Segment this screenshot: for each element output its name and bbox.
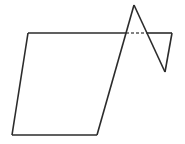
line-drawing-figure bbox=[0, 0, 185, 144]
figure-canvas bbox=[0, 0, 185, 144]
figure-background bbox=[0, 0, 185, 144]
